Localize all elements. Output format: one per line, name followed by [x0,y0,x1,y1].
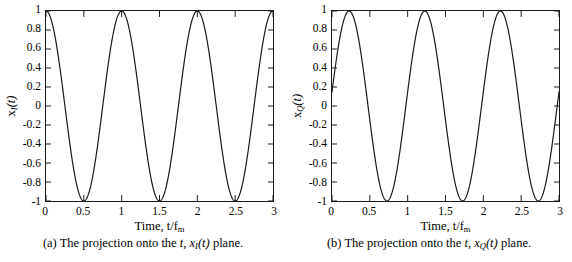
caption-suffix: plane. [498,236,531,250]
y-axis-label-sub: I [9,107,19,110]
plot-area-b [331,10,560,202]
x-axis-label-text: Time, t/f [135,219,178,233]
x-tick-label: 2.5 [502,205,542,217]
caption-prefix: (a) The projection onto the [43,236,180,250]
y-axis-label-sub: Q [295,106,305,112]
y-axis-label-text: xI(t) [5,96,18,117]
x-tick-label: 0 [25,205,65,217]
caption-arg: (t) [198,236,210,250]
caption-sub: I [195,241,198,251]
y-axis-label-arg: (t) [4,96,18,108]
x-axis-label-sub: m [464,224,471,234]
x-axis-label-b: Time, t/fm [331,219,560,233]
caption-a: (a) The projection onto the t, xI(t) pla… [4,236,282,251]
y-axis-label-var: x [4,110,18,116]
caption-b: (b) The projection onto the t, xQ(t) pla… [290,236,568,251]
x-tick-label: 1.5 [426,205,466,217]
x-tick-label: 1 [101,205,141,217]
figure-root: 1 0.8 0.6 0.4 0.2 0 -0.2 -0.4 -0.6 -0.8 … [0,0,572,262]
caption-var: x [474,236,480,250]
tick-marks-b [332,11,559,201]
x-tick-label: 0 [311,205,351,217]
x-tick-labels-a: 0 0.5 1 1.5 2 2.5 3 [45,205,274,219]
y-axis-label-text: xQ(t) [291,94,304,118]
x-tick-label: 3 [540,205,572,217]
x-axis-label-sub: m [178,224,185,234]
x-tick-label: 2 [178,205,218,217]
panel-a: 1 0.8 0.6 0.4 0.2 0 -0.2 -0.4 -0.6 -0.8 … [0,0,286,262]
plot-canvas-b [332,11,559,201]
x-tick-label: 0.5 [349,205,389,217]
x-tick-labels-b: 0 0.5 1 1.5 2 2.5 3 [331,205,560,219]
y-axis-label-b: xQ(t) [288,10,306,202]
x-tick-label: 1.5 [140,205,180,217]
x-tick-label: 2.5 [216,205,256,217]
caption-prefix: (b) The projection onto the [327,236,465,250]
x-axis-label-text: Time, t/f [421,219,464,233]
y-axis-label-var: x [290,112,304,118]
caption-sub: Q [480,241,486,251]
plot-area-a [45,10,274,202]
waveform-panel-a [46,11,273,201]
waveform-panel-b [332,11,559,201]
tick-marks-a [46,11,273,201]
y-axis-label-a: xI(t) [2,10,20,202]
plot-canvas-a [46,11,273,201]
panel-b: 1 0.8 0.6 0.4 0.2 0 -0.2 -0.4 -0.6 -0.8 … [286,0,572,262]
caption-suffix: plane. [210,236,243,250]
x-tick-label: 0.5 [63,205,103,217]
x-tick-label: 2 [464,205,504,217]
y-axis-label-arg: (t) [290,94,304,106]
caption-arg: (t) [486,236,498,250]
x-axis-label-a: Time, t/fm [45,219,274,233]
x-tick-label: 1 [387,205,427,217]
